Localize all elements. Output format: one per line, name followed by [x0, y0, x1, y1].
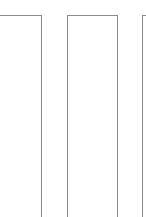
panel-2: [67, 15, 118, 217]
panel-1: [0, 15, 42, 217]
panel-3: [142, 15, 146, 217]
